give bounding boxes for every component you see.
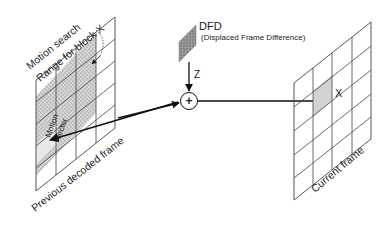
current-frame-label: Current frame <box>309 144 366 195</box>
adder-symbol: + <box>185 94 192 108</box>
current-block-x <box>313 75 332 117</box>
z-label: Z <box>194 69 200 80</box>
dfd-patch <box>179 25 196 62</box>
current-block-label: X <box>335 87 343 99</box>
dfd-label: DFD <box>199 20 222 32</box>
dfd-sublabel: (Displaced Frame Difference) <box>201 33 306 42</box>
input-arrow <box>118 103 179 118</box>
adder: + <box>181 93 198 110</box>
motion-compensation-diagram: Motion search Range for block X Motion v… <box>0 0 392 227</box>
